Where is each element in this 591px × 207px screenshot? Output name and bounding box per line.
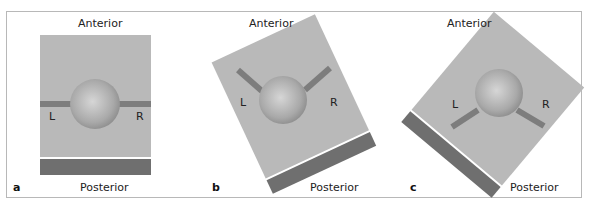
label-posterior: Posterior xyxy=(80,181,129,194)
target-sphere xyxy=(70,79,120,129)
label-left: L xyxy=(49,110,55,123)
target-sphere xyxy=(259,76,307,124)
label-left: L xyxy=(452,98,458,111)
label-right: R xyxy=(542,98,550,111)
label-anterior: Anterior xyxy=(78,17,122,30)
label-anterior: Anterior xyxy=(447,17,491,30)
panel-letter-b: b xyxy=(212,181,220,194)
label-right: R xyxy=(330,96,338,109)
label-anterior: Anterior xyxy=(249,17,293,30)
label-posterior: Posterior xyxy=(510,181,559,194)
panel-letter-c: c xyxy=(410,181,417,194)
target-sphere xyxy=(475,69,523,117)
table-bar xyxy=(40,159,151,175)
diagram-canvas xyxy=(0,0,591,207)
label-left: L xyxy=(240,96,246,109)
panel-a xyxy=(40,35,151,175)
panel-letter-a: a xyxy=(13,181,20,194)
label-right: R xyxy=(136,110,144,123)
label-posterior: Posterior xyxy=(310,181,359,194)
